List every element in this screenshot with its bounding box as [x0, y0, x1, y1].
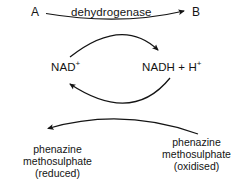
- mediator-reduced-line3: (reduced): [7, 167, 108, 179]
- mediator-reduced-label: phenazine methosulphate (reduced): [7, 143, 108, 179]
- mediator-oxidised-line2: methosulphate: [146, 148, 247, 160]
- mediator-reduced-line2: methosulphate: [7, 155, 108, 167]
- nad-charge-superscript: +: [76, 59, 81, 68]
- arrow-nad-to-nadh: [70, 35, 158, 57]
- cofactor-nadh-reduced-label: NADH + H+: [142, 61, 202, 73]
- mediator-oxidised-label: phenazine methosulphate (oxidised): [146, 136, 247, 172]
- mediator-oxidised-line1: phenazine: [146, 136, 247, 148]
- arrow-pms-oxidised-to-reduced: [48, 119, 198, 134]
- mediator-reduced-line1: phenazine: [7, 143, 108, 155]
- product-label-b: B: [192, 6, 200, 18]
- redox-cycle-diagram: A B dehydrogenase NAD+ NADH + H+ phenazi…: [0, 0, 251, 182]
- substrate-label-a: A: [31, 6, 39, 18]
- arrow-nadh-to-nad: [70, 78, 170, 103]
- enzyme-label: dehydrogenase: [71, 6, 152, 18]
- mediator-oxidised-line3: (oxidised): [146, 160, 247, 172]
- cofactor-nad-oxidised-label: NAD+: [51, 61, 80, 73]
- nad-base-text: NAD: [51, 61, 76, 73]
- nadh-base-text: NADH + H: [142, 61, 197, 73]
- nadh-charge-superscript: +: [197, 59, 202, 68]
